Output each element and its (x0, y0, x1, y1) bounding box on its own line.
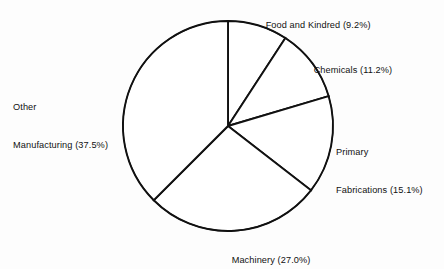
pie-label-chemicals: Chemicals (11.2%) (303, 51, 392, 89)
pie-label-other-manufacturing: Other Manufacturing (37.5%) (13, 76, 108, 177)
pie-label-machinery: Machinery (27.0%) (221, 241, 310, 269)
pie-label-other-manufacturing-line2: Manufacturing (37.5%) (13, 139, 108, 152)
pie-label-other-manufacturing-line1: Other (13, 101, 108, 114)
pie-label-food-and-kindred-text: Food and Kindred (9.2%) (266, 20, 371, 30)
pie-label-primary-fabrications-line1: Primary (336, 146, 423, 159)
pie-label-primary-fabrications: Primary Fabrications (15.1%) (336, 121, 423, 222)
pie-label-chemicals-text: Chemicals (11.2%) (314, 65, 393, 75)
pie-slices (123, 21, 333, 231)
pie-label-food-and-kindred: Food and Kindred (9.2%) (255, 6, 371, 44)
pie-label-primary-fabrications-line2: Fabrications (15.1%) (336, 184, 423, 197)
pie-label-machinery-text: Machinery (27.0%) (232, 255, 311, 265)
